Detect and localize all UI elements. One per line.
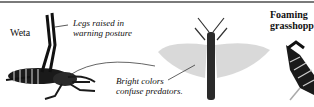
foaming-label-line-2: grasshopper xyxy=(270,20,314,31)
legs-caption-line-1: Legs raised in xyxy=(73,18,133,28)
bright-caption-line-2: confuse predators. xyxy=(116,86,186,96)
legs-raised-caption: Legs raised in warning posture xyxy=(73,18,133,38)
foaming-grasshopper-illustration xyxy=(286,42,314,100)
foaming-grasshopper-label: Foaming grasshopper xyxy=(270,9,314,31)
bright-caption-line-1: Bright colors xyxy=(116,76,186,86)
bright-colors-caption: Bright colors confuse predators. xyxy=(116,76,186,96)
foaming-label-line-1: Foaming xyxy=(270,9,314,20)
weta-label: Weta xyxy=(10,28,30,38)
legs-caption-line-2: warning posture xyxy=(73,28,133,38)
